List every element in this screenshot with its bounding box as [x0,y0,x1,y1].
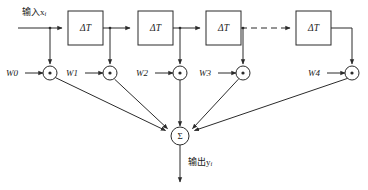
sum-wire-4 [195,78,348,130]
input-label-text: 输入x [22,6,45,17]
diagram-canvas: ΔT ΔT ΔT ΔT [0,0,368,190]
sum-wire-3 [193,79,239,128]
multiplier-0[interactable] [43,66,57,80]
multiplier-2[interactable] [173,66,187,80]
sum-wire-0 [55,78,165,131]
delay-block-3[interactable]: ΔT [206,11,241,45]
junction-dot-1 [109,27,112,30]
weight-label-w2: W2 [136,68,148,78]
weight-label-w4: W4 [308,68,320,78]
input-label-subscript: i [45,10,47,17]
multiplier-3-dot [241,71,244,74]
junction-dot-2 [179,27,182,30]
sum-wire-1 [115,79,168,128]
weight-label-w1: W1 [66,68,78,78]
delay-block-2-label: ΔT [149,23,162,33]
multiplier-2-dot [178,71,181,74]
multiplier-4[interactable] [345,66,359,80]
output-label-text: 输出y [188,156,211,167]
delay-block-2[interactable]: ΔT [138,11,173,45]
summation-input-wires [55,78,347,131]
weight-label-w3: W3 [199,68,211,78]
delay-block-1-label: ΔT [79,23,92,33]
input-label: 输入xi [22,6,47,17]
delay-block-1[interactable]: ΔT [68,11,103,45]
delay-block-3-label: ΔT [217,23,230,33]
multiplier-3[interactable] [236,66,250,80]
delay-block-4[interactable]: ΔT [296,11,331,45]
junction-dot-0 [49,27,52,30]
output-label: 输出yi [188,156,213,167]
multiplier-4-dot [350,71,353,74]
multiplier-0-dot [48,71,51,74]
weight-label-w0: W0 [6,68,18,78]
multiplier-1-dot [108,71,111,74]
fir-filter-diagram: ΔT ΔT ΔT ΔT [0,0,368,190]
junction-dot-3 [242,27,245,30]
multiplier-1[interactable] [103,66,117,80]
delay-block-4-label: ΔT [307,23,320,33]
output-label-subscript: i [211,160,213,167]
summation-node-label: Σ [177,131,182,141]
summation-node[interactable]: Σ [171,127,189,145]
